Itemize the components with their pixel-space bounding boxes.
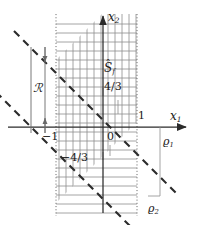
vertical-hatching <box>59 0 136 215</box>
tick-label-y-negative: −4/3 <box>61 152 88 163</box>
tick-label-y-positive: 4/3 <box>104 81 122 92</box>
tick-label-origin: 0 <box>107 131 114 142</box>
hat-accent-icon: ˆ <box>105 59 111 70</box>
axis-label-x1: x1 <box>170 110 182 123</box>
math-figure: x2 x1 ˆ Sf 4/3 −4/3 0 −1 1 ℛ ϱ1 ϱ2 <box>0 0 203 225</box>
line-label-rho2: ϱ2 <box>148 203 159 215</box>
tick-label-x-negative-one: −1 <box>42 131 58 142</box>
dashed-line-rho1 <box>14 31 178 195</box>
set-label-s-hat: ˆ Sf <box>104 62 115 75</box>
rho-connectors <box>148 127 160 196</box>
band-label-r: ℛ <box>33 82 43 94</box>
tick-label-x-positive-one: 1 <box>138 110 145 121</box>
horizontal-hatching <box>56 24 137 213</box>
line-label-rho1: ϱ1 <box>163 136 174 148</box>
axis-label-x2: x2 <box>108 11 120 24</box>
